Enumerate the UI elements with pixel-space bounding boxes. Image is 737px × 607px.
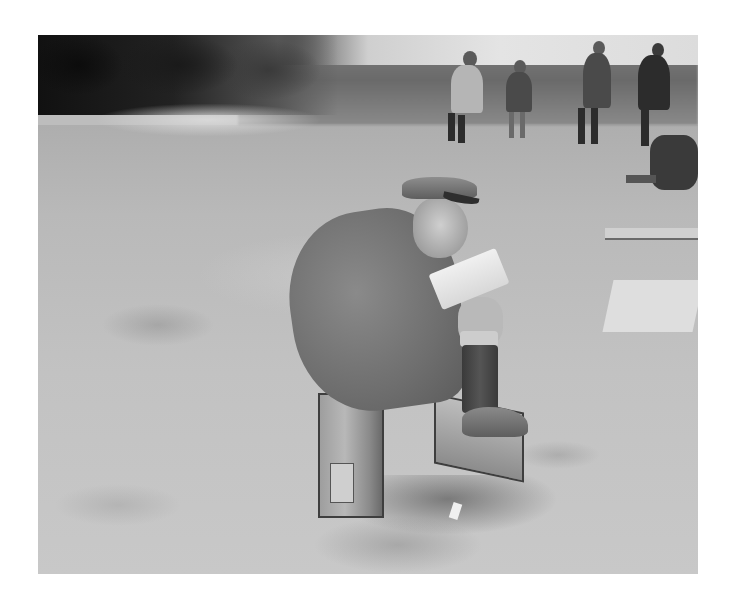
bright-path <box>58 95 358 145</box>
ground-sheet <box>602 280 698 332</box>
puttee-sock <box>462 345 498 413</box>
soldier-face <box>413 198 468 258</box>
wooden-plank <box>605 228 698 240</box>
photograph <box>38 35 698 574</box>
box-label-plate <box>330 463 354 503</box>
